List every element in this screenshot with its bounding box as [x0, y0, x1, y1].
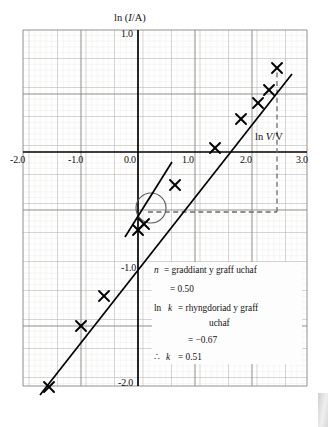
- x-tick-label: 1.0: [182, 155, 194, 165]
- annotation-line-1: = graddiant y graff uchaf: [164, 266, 257, 275]
- figure-canvas: ln (I/A) ln V/V -2.0 -1.0 0.0 1.0 2.0 3.…: [0, 0, 328, 427]
- annotation-line-4: uchaf: [209, 319, 230, 328]
- annotation-line-5: = −0.67: [188, 336, 217, 345]
- annotation-ln-label: ln: [154, 304, 161, 313]
- x-axis-title-text: ln V/V: [255, 131, 283, 142]
- annotation-line-6: = 0.51: [178, 353, 202, 362]
- y-tick-label: -1.0: [121, 263, 136, 273]
- x-tick-label: -1.0: [68, 155, 83, 165]
- annotation-line-3: = rhyngdoriad y graff: [178, 304, 258, 313]
- y-axis-title-text: ln (I/A): [114, 12, 146, 23]
- annotation-therefore-symbol: ∴: [154, 353, 160, 362]
- page-edge-artifact: [318, 393, 328, 427]
- annotation-symbol-k: k: [168, 304, 172, 313]
- x-axis-title: ln V/V: [255, 132, 283, 143]
- annotation-symbol-n: n: [154, 266, 159, 275]
- x-tick-label: -2.0: [10, 155, 25, 165]
- y-axis-title: ln (I/A): [114, 13, 146, 24]
- x-tick-label: 0.0: [124, 155, 136, 165]
- y-tick-label: 1.0: [121, 29, 133, 39]
- annotation-symbol-k-result: k: [166, 353, 170, 362]
- y-tick-label: -2.0: [118, 378, 133, 388]
- x-tick-label: 2.0: [240, 155, 252, 165]
- annotation-panel: n = graddiant y graff uchaf = 0.50 ln k …: [152, 262, 302, 364]
- annotation-line-2: = 0.50: [170, 285, 194, 294]
- x-tick-label: 3.0: [296, 155, 308, 165]
